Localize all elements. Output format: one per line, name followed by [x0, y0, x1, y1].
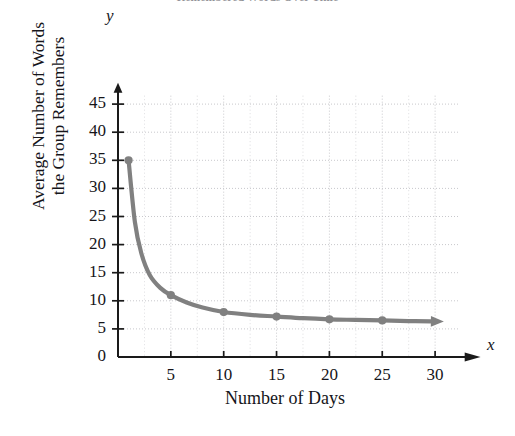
y-tick-label: 20: [76, 234, 106, 254]
x-tick-label: 10: [207, 365, 241, 385]
y-tick-label: 45: [76, 93, 106, 113]
x-tick-label: 25: [365, 365, 399, 385]
data-points: [124, 156, 386, 324]
x-tick-label: 20: [312, 365, 346, 385]
y-tick-label: 35: [76, 149, 106, 169]
y-tick-label: 40: [76, 121, 106, 141]
y-tick-label: 30: [76, 177, 106, 197]
y-tick-label: 15: [76, 262, 106, 282]
data-curve: [129, 160, 444, 326]
x-tick-label: 5: [154, 365, 188, 385]
y-tick-label: 5: [76, 318, 106, 338]
y-tick-label: 10: [76, 290, 106, 310]
x-tick-label: 15: [260, 365, 294, 385]
y-tick-label: 25: [76, 206, 106, 226]
chart-figure: Remembered Words Over Time y x Average N…: [0, 0, 515, 436]
x-tick-label: 30: [418, 365, 452, 385]
y-tick-label: 0: [76, 346, 106, 366]
